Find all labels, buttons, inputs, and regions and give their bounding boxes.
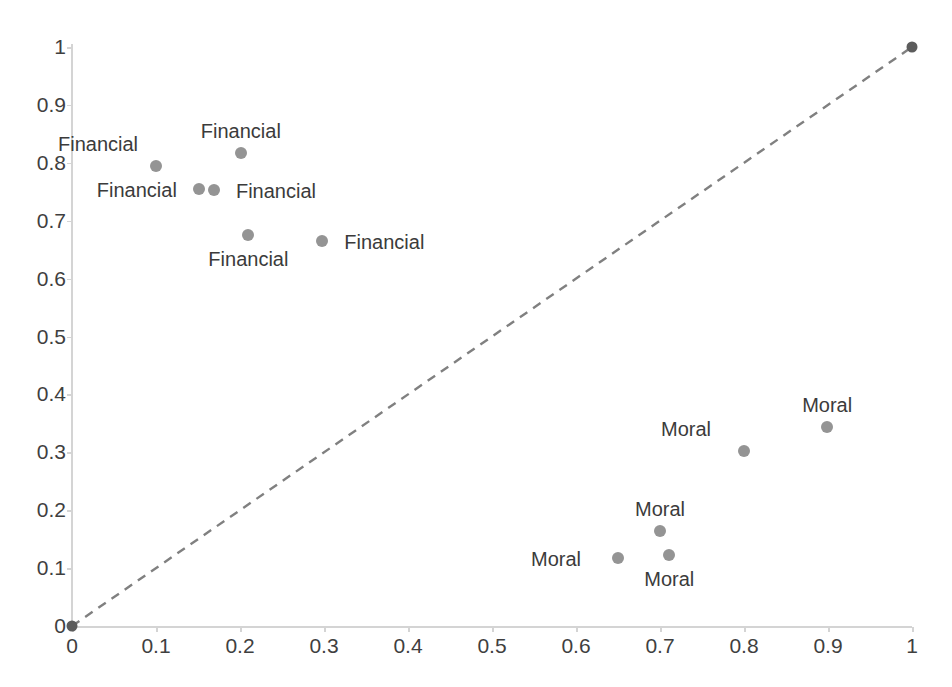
x-tick-mark — [408, 627, 410, 632]
data-point[interactable] — [193, 183, 205, 195]
data-point[interactable] — [612, 552, 624, 564]
x-tick-mark — [828, 627, 830, 632]
data-point[interactable] — [654, 525, 666, 537]
data-point[interactable] — [316, 235, 328, 247]
x-tick-label: 0.6 — [561, 634, 590, 658]
x-tick-mark — [492, 627, 494, 632]
x-tick-mark — [240, 627, 242, 632]
y-tick-mark — [67, 394, 72, 396]
y-tick-mark — [67, 452, 72, 454]
y-tick-mark — [67, 47, 72, 49]
data-point-label: Moral — [661, 417, 711, 440]
x-tick-label: 0.5 — [477, 634, 506, 658]
x-tick-label: 0.3 — [309, 634, 338, 658]
data-point[interactable] — [235, 147, 247, 159]
y-tick-mark — [67, 510, 72, 512]
y-tick-mark — [67, 163, 72, 165]
y-tick-label: 1 — [54, 35, 66, 59]
y-tick-label: 0.9 — [37, 93, 66, 117]
x-tick-label: 0.4 — [393, 634, 422, 658]
data-point[interactable] — [738, 445, 750, 457]
x-tick-mark — [576, 627, 578, 632]
data-point-label: Financial — [208, 248, 288, 271]
data-point-label: Financial — [344, 230, 424, 253]
x-tick-label: 0.7 — [645, 634, 674, 658]
data-point[interactable] — [242, 229, 254, 241]
x-tick-label: 0.8 — [729, 634, 758, 658]
data-point-label: Moral — [802, 393, 852, 416]
x-tick-mark — [660, 627, 662, 632]
data-point[interactable] — [663, 549, 675, 561]
y-tick-label: 0.2 — [37, 498, 66, 522]
x-tick-label: 0.2 — [225, 634, 254, 658]
data-point-label: Financial — [201, 119, 281, 142]
scatter-chart: 00.10.20.30.40.50.60.70.80.91 00.10.20.3… — [0, 0, 952, 687]
y-tick-mark — [67, 279, 72, 281]
x-tick-label: 0.9 — [813, 634, 842, 658]
y-tick-label: 0.5 — [37, 325, 66, 349]
y-tick-label: 0.6 — [37, 267, 66, 291]
y-tick-label: 0.7 — [37, 209, 66, 233]
diagonal-line-segment — [72, 47, 912, 626]
x-tick-mark — [744, 627, 746, 632]
y-tick-label: 0.1 — [37, 556, 66, 580]
data-point-label: Moral — [644, 567, 694, 590]
data-point[interactable] — [150, 160, 162, 172]
y-tick-mark — [67, 337, 72, 339]
y-tick-label: 0.4 — [37, 382, 66, 406]
diagonal-identity-line — [0, 0, 952, 687]
x-tick-mark — [912, 627, 914, 632]
data-point[interactable] — [821, 421, 833, 433]
data-point-label: Financial — [58, 132, 138, 155]
x-tick-label: 0 — [66, 634, 78, 658]
y-tick-label: 0.3 — [37, 440, 66, 464]
y-tick-label: 0 — [54, 614, 66, 638]
diagonal-endpoint-marker — [67, 621, 78, 632]
data-point-label: Moral — [531, 548, 581, 571]
y-tick-mark — [67, 221, 72, 223]
x-tick-mark — [156, 627, 158, 632]
x-tick-mark — [324, 627, 326, 632]
data-point[interactable] — [208, 184, 220, 196]
data-point-label: Financial — [236, 180, 316, 203]
diagonal-endpoint-marker — [907, 42, 918, 53]
x-tick-label: 0.1 — [141, 634, 170, 658]
y-tick-mark — [67, 568, 72, 570]
x-tick-label: 1 — [906, 634, 918, 658]
data-point-label: Moral — [635, 498, 685, 521]
data-point-label: Financial — [97, 178, 177, 201]
y-tick-mark — [67, 105, 72, 107]
